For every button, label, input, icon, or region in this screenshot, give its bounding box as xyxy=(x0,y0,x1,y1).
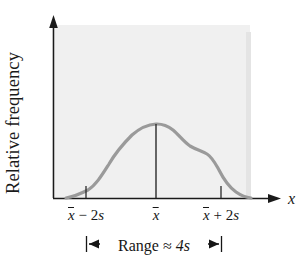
x-axis-arrowhead xyxy=(268,194,281,203)
tick-label-mean-minus-2s: x − 2s xyxy=(68,207,104,224)
tick-label-mean: x xyxy=(153,207,160,224)
figure-canvas xyxy=(0,0,306,272)
tick-label-mean-plus-2s: x + 2s xyxy=(203,207,239,224)
range-value: 4s xyxy=(176,237,190,254)
relative-frequency-figure: Relative frequency x x − 2s x x + 2s Ran… xyxy=(0,0,306,272)
range-approx-symbol: ≈ xyxy=(163,237,172,254)
range-word: Range xyxy=(118,237,159,254)
range-bracket-left-arrowhead xyxy=(89,240,99,249)
x-axis-name: x xyxy=(288,190,295,208)
plot-panel-shadow-edge xyxy=(246,32,251,198)
range-annotation-label: Range ≈ 4s xyxy=(118,237,190,255)
range-bracket-right-arrowhead xyxy=(209,240,219,249)
y-axis-arrowhead xyxy=(49,15,58,28)
y-axis-label: Relative frequency xyxy=(0,18,26,228)
